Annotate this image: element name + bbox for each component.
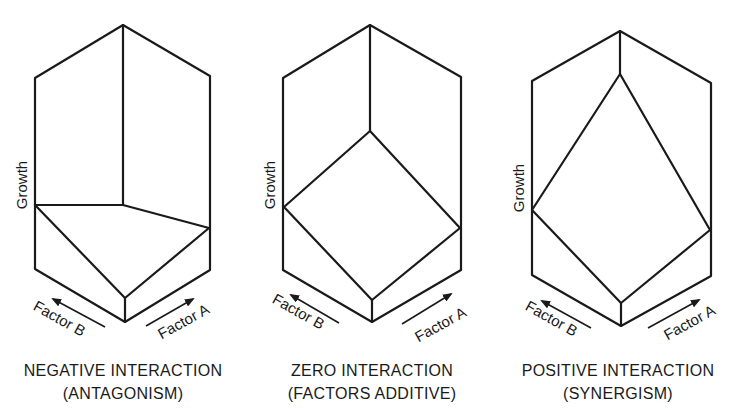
factor-a-label: Factor A [661,301,718,343]
response-surface-outline [284,131,460,300]
box-frame [283,25,461,322]
caption-subtitle: (ANTAGONISM) [63,385,184,402]
interaction-diagrams-figure: Growth Factor B Factor A NEGATIVE INTERA… [0,0,745,410]
caption-title: ZERO INTERACTION [291,362,453,379]
factor-a-label: Factor A [155,300,212,342]
response-surface-outline [532,74,710,303]
y-axis-label: Growth [510,164,527,212]
caption-subtitle: (FACTORS ADDITIVE) [288,385,457,402]
y-axis-label: Growth [13,161,30,209]
response-surface [532,74,710,303]
panel-negative-interaction: Growth Factor B Factor A NEGATIVE INTERA… [13,25,222,402]
box-frame [35,25,210,322]
factor-a-label: Factor A [412,303,469,345]
caption-title: NEGATIVE INTERACTION [24,362,223,379]
response-surface [284,131,460,300]
y-axis-label: Growth [261,161,278,209]
panel-positive-interaction: Growth Factor B Factor A POSITIVE INTERA… [510,31,718,402]
caption-subtitle: (SYNERGISM) [563,385,673,402]
caption-title: POSITIVE INTERACTION [522,362,715,379]
outer-outline [283,25,461,322]
panel-zero-interaction: Growth Factor B Factor A ZERO INTERACTIO… [261,25,469,402]
